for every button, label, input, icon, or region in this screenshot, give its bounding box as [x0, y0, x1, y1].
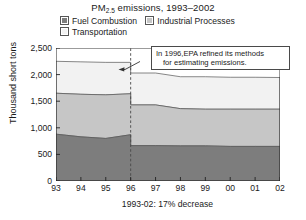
legend-row-1: Fuel Combustion Industrial Processes: [60, 16, 300, 27]
legend-item-fuel-combustion[interactable]: Fuel Combustion: [60, 16, 137, 27]
legend-swatch-icon-fuel-combustion: [60, 16, 69, 25]
x-tick-label: 01: [244, 183, 266, 193]
x-tick-label: 00: [219, 183, 241, 193]
chart-title: PM2.5 emissions, 1993–2002: [0, 2, 306, 14]
x-tick-label: 99: [194, 183, 216, 193]
y-tick-label: 500: [10, 149, 52, 159]
x-tick-label: 93: [45, 183, 67, 193]
legend-label-industrial-processes: Industrial Processes: [157, 16, 234, 27]
annotation-line-1: In 1996,EPA refined its methods: [156, 49, 286, 58]
chart-footnote: 1993-02: 17% decrease: [55, 199, 280, 209]
y-tick-label: 2,500: [10, 43, 52, 53]
legend-item-transportation[interactable]: Transportation: [60, 27, 127, 38]
legend-swatch-icon-industrial-processes: [145, 16, 154, 25]
annotation-line-2: for estimating emissions.: [156, 58, 286, 67]
y-tick-label: 1,000: [10, 123, 52, 133]
x-tick-label: 02: [269, 183, 291, 193]
chart-title-suffix: emissions, 1993–2002: [115, 2, 215, 13]
x-tick-label: 94: [70, 183, 92, 193]
annotation-callout: In 1996,EPA refined its methods for esti…: [151, 46, 290, 70]
legend-label-fuel-combustion: Fuel Combustion: [72, 16, 137, 27]
x-tick-label: 96: [120, 183, 142, 193]
x-tick-label: 97: [145, 183, 167, 193]
chart-title-subscript: 2.5: [106, 7, 115, 14]
x-axis-ticks: 93 94 95 96 97 98 99 00 01 02: [56, 183, 280, 196]
legend-swatch-icon-transportation: [60, 27, 69, 36]
y-tick-label: 2,000: [10, 70, 52, 80]
x-tick-label: 95: [95, 183, 117, 193]
legend-label-transportation: Transportation: [72, 27, 127, 38]
legend-row-2: Transportation: [60, 27, 300, 38]
y-axis-ticks: 2,500 2,000 1,500 1,000 500 0: [8, 48, 52, 181]
y-tick-label: 1,500: [10, 96, 52, 106]
chart-title-prefix: PM: [91, 2, 105, 13]
chart-figure: PM2.5 emissions, 1993–2002 Fuel Combusti…: [0, 0, 306, 220]
legend-item-industrial-processes[interactable]: Industrial Processes: [145, 16, 234, 27]
x-tick-label: 98: [169, 183, 191, 193]
chart-legend: Fuel Combustion Industrial Processes Tra…: [60, 16, 300, 38]
